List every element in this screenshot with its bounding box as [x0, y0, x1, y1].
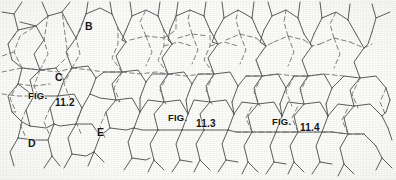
lattice-dashed-edge [236, 10, 240, 34]
lattice-solid-edge [320, 2, 322, 18]
lattice-solid-edge [372, 18, 376, 32]
lattice-solid-edge [376, 146, 382, 158]
lattice-solid-edge [86, 2, 88, 14]
lattice-solid-edge [348, 134, 376, 146]
lattice-solid-edge [116, 42, 126, 72]
lattice-solid-edge [340, 134, 348, 164]
lattice-solid-edge [176, 2, 178, 16]
lattice-solid-edge [244, 132, 252, 162]
lattice-solid-edge [196, 130, 204, 160]
lattice-solid-edge [122, 70, 146, 82]
lattice-solid-edge [258, 32, 266, 46]
lattice-solid-edge [298, 18, 304, 34]
lattice-dashed-edge [288, 36, 294, 66]
lattice-solid-edge [382, 116, 388, 128]
lattice-solid-edge [112, 14, 118, 28]
lattice-solid-edge [274, 162, 286, 164]
lattice-solid-edge [82, 94, 90, 108]
lattice-solid-edge [130, 2, 132, 16]
lattice-dashed-edge [40, 16, 48, 70]
lattice-solid-edge [86, 8, 112, 14]
lattice-solid-edge [106, 100, 116, 128]
lattice-dashed-edge [192, 34, 198, 64]
lattice-dashed-edge [14, 26, 36, 68]
lattice-solid-edge [168, 72, 192, 84]
lattice-solid-edge [228, 114, 234, 130]
lattice-solid-edge [316, 132, 322, 162]
lattice-solid-edge [360, 76, 386, 88]
lattice-dashed-edge [64, 68, 72, 98]
label-c: C [55, 71, 63, 83]
lattice-solid-edge [36, 26, 44, 40]
lattice-solid-edge [48, 124, 54, 156]
lattice-solid-edge [308, 74, 332, 88]
lattice-solid-edge [302, 46, 312, 76]
lattice-dashed-edge [304, 40, 320, 46]
lattice-solid-edge [68, 124, 76, 154]
lattice-solid-edge [158, 2, 160, 16]
lattice-solid-edge [64, 154, 72, 168]
lattice-solid-edge [348, 4, 350, 20]
lattice-dashed-edge [294, 74, 344, 76]
lattice-solid-edge [320, 162, 332, 164]
lattice-solid-edge [214, 72, 238, 86]
lattice-solid-edge [8, 84, 18, 112]
lattice-solid-edge [110, 2, 112, 14]
lattice-solid-edge [140, 82, 146, 98]
lattice-solid-edge [162, 44, 172, 74]
lattice-dashed-edge [240, 34, 246, 64]
solid-line-network [2, 2, 392, 176]
lattice-solid-edge [14, 14, 18, 30]
lattice-solid-edge [134, 112, 140, 128]
lattice-dashed-edge [334, 38, 340, 68]
lattice-solid-edge [54, 124, 76, 126]
lattice-solid-edge [226, 160, 238, 162]
lattice-solid-edge [90, 78, 96, 94]
lattice-solid-edge [382, 158, 392, 168]
lattice-solid-edge [10, 138, 18, 166]
lattice-solid-edge [242, 162, 248, 174]
lattice-solid-edge [154, 160, 164, 170]
lattice-dashed-edge [168, 74, 214, 76]
lattice-solid-edge [222, 2, 224, 18]
lattice-solid-edge [68, 24, 76, 38]
lattice-solid-edge [124, 158, 132, 170]
lattice-solid-edge [94, 152, 104, 162]
label-d: D [28, 137, 36, 149]
lattice-solid-edge [290, 132, 298, 162]
lattice-solid-edge [180, 160, 192, 162]
lattice-solid-edge [248, 162, 258, 172]
lattice-solid-edge [150, 130, 158, 160]
lattice-solid-edge [216, 18, 224, 32]
lattice-solid-edge [90, 94, 116, 100]
lattice-solid-edge [158, 16, 164, 30]
lattice-solid-edge [42, 2, 48, 16]
lattice-dashed-edge [188, 10, 192, 34]
fig-11-3-number: 11.3 [196, 118, 216, 129]
lattice-solid-edge [388, 128, 392, 140]
lattice-solid-edge [218, 160, 226, 172]
lattice-solid-edge [200, 160, 210, 170]
lattice-solid-edge [262, 74, 286, 88]
lattice-dashed-edge [2, 68, 56, 72]
lattice-solid-edge [208, 44, 218, 74]
lattice-solid-edge [294, 162, 304, 172]
lattice-solid-edge [256, 46, 266, 76]
lattice-dashed-edge [300, 76, 308, 92]
lattice-solid-edge [386, 88, 390, 100]
lattice-solid-edge [176, 130, 182, 160]
lattice-solid-edge [170, 16, 176, 30]
lattice-dashed-edge [330, 12, 336, 38]
lattice-solid-edge [304, 102, 328, 116]
lattice-dashed-edge [256, 38, 274, 46]
lattice-dashed-edge [146, 36, 152, 66]
lattice-solid-edge [252, 2, 254, 18]
lattice-solid-edge [222, 130, 228, 160]
lattice-solid-edge [310, 34, 314, 46]
lattice-solid-edge [148, 160, 154, 172]
figure-canvas: FIG.11.2FIG.11.3FIG.11.4 BCDE [0, 0, 396, 180]
lattice-solid-edge [204, 16, 210, 30]
lattice-dashed-edge [380, 88, 386, 116]
lattice-solid-edge [20, 16, 48, 26]
lattice-solid-edge [12, 60, 22, 68]
